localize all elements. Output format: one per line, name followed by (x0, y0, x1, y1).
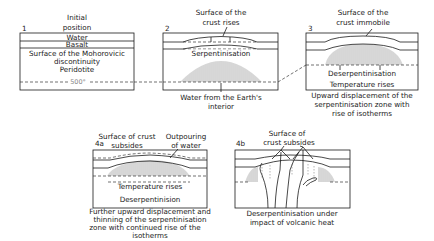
panel-3-caption-line3: rise of isotherms (332, 109, 392, 118)
panel-4b-title-line1: Surface of (269, 129, 306, 138)
panel-4b-caption-line2: impact of volcanic heat (250, 218, 334, 227)
panel-1-title-line2: position (63, 23, 91, 32)
deserpentinisation-label: Deserpentinisation (328, 69, 396, 78)
label-pointer (223, 27, 227, 36)
panel-3: 3 Surface of the crust immobile Deserpen… (306, 8, 418, 118)
panel-4a: 4a Surface of crust subsides Outpouring … (89, 132, 211, 240)
fractures (262, 164, 314, 180)
panel-1-title-line1: Initial (67, 13, 87, 22)
magma-conduit (260, 163, 268, 208)
panel-2-title-line2: crust rises (202, 18, 239, 27)
outpouring-label-line2: of water (171, 141, 201, 150)
temperature-label: Temperature rises (117, 182, 183, 191)
panel-3-title-line1: Surface of the (338, 8, 389, 17)
panel-3-caption-line1: Upward displacement of the (311, 91, 413, 100)
panel-2-caption-line2: interior (208, 102, 234, 111)
serpentinisation-remnant (245, 167, 258, 182)
deserpentinisation-label: Deserpentinision (120, 195, 181, 204)
panel-4a-title-line1: Surface of crust (99, 132, 156, 141)
panel-1: 1 Initial position Water Basalt Surface … (20, 13, 134, 90)
crust-surface-raised (163, 37, 278, 43)
serpentinisation-diagram: 1 Initial position Water Basalt Surface … (0, 0, 434, 241)
magma-conduit (297, 150, 303, 208)
panel-4b-number: 4b (236, 139, 246, 148)
panel-2-number: 2 (165, 24, 170, 33)
layer-basalt-label: Basalt (66, 40, 88, 49)
panel-3-number: 3 (308, 24, 313, 33)
crust-surface (306, 36, 418, 42)
outpouring-label-line1: Outpouring (166, 132, 207, 141)
former-surface-dashed (93, 153, 207, 158)
panel-1-number: 1 (22, 24, 27, 33)
panel-3-title-line2: crust immobile (336, 18, 390, 27)
serpentinisation-remnant (318, 167, 335, 182)
panel-4b-title-line2: crust subsides (263, 138, 315, 147)
panel-4b: 4b Surface of crust subsides Deserpentin… (235, 129, 350, 227)
panel-2-title-line1: Surface of the (196, 8, 247, 17)
isotherm-500-label: 500° (70, 78, 86, 86)
crust-surface (235, 155, 350, 159)
crust-surface (93, 155, 207, 160)
serpentinisation-label: Serpentinisation (192, 49, 251, 58)
isotherm-connector-2-3 (278, 65, 306, 82)
panel-4a-title-line2: subsides (111, 141, 143, 150)
label-pointer (366, 29, 372, 36)
serpentinisation-zone (107, 160, 190, 176)
panel-3-caption-line2: serpentinisation zone with (315, 100, 410, 109)
magma-intrusion (303, 178, 317, 186)
peridotite-label: Peridotite (60, 65, 95, 74)
panel-2: 2 Surface of the crust rises Serpentinis… (163, 8, 278, 111)
panel-4b-caption-line1: Deserpentinisation under (246, 209, 337, 218)
panel-2-caption-line1: Water from the Earth's (180, 93, 262, 102)
panel-4a-caption-line4: isotherms (132, 231, 168, 240)
temperature-label: Temperature rises (329, 80, 395, 89)
serpentinisation-zone (180, 61, 262, 82)
